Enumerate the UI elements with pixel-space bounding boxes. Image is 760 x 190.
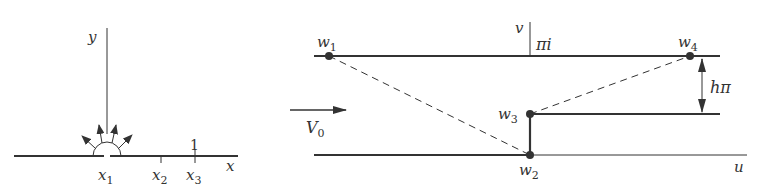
conformal-map-diagram: y x 1 x1 x2 x3 v u πi <box>0 0 760 190</box>
x-axis-label: x <box>226 157 235 175</box>
label-x1: x1 <box>98 166 113 187</box>
z-plane: y x 1 x1 x2 x3 <box>14 28 238 187</box>
label-w3: w3 <box>498 105 518 126</box>
source-semicircle <box>93 142 121 156</box>
label-w1: w1 <box>317 33 337 54</box>
flow-label: V0 <box>306 118 325 140</box>
u-axis-label: u <box>734 158 744 176</box>
v-axis-label: v <box>515 19 524 37</box>
label-w2: w2 <box>519 161 539 182</box>
vertex-w3 <box>526 110 534 118</box>
y-axis-label: y <box>87 28 97 46</box>
step-height-label: hπ <box>710 78 731 97</box>
pi-i-label: πi <box>535 35 552 54</box>
label-x3: x3 <box>186 166 201 187</box>
vertex-w2 <box>526 151 534 159</box>
label-x2: x2 <box>152 166 167 187</box>
tick-label-one: 1 <box>190 137 199 153</box>
w-plane: v u πi w1 w2 w3 w4 hπ V0 <box>290 19 747 182</box>
label-w4: w4 <box>678 33 698 54</box>
dashed-w3-w4 <box>530 56 690 114</box>
